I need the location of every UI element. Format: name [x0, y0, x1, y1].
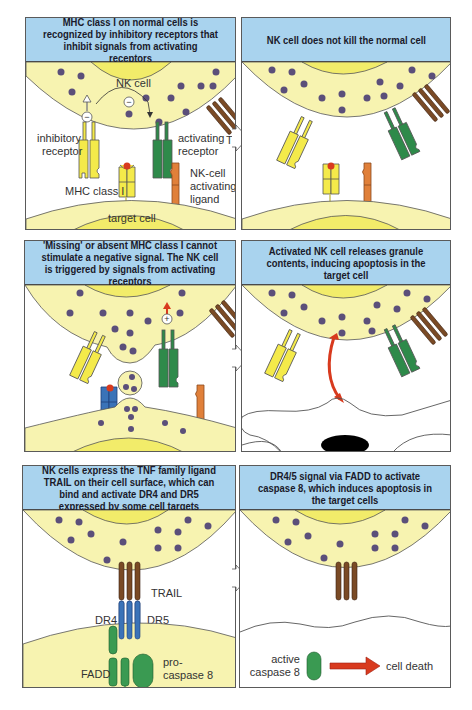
panel-normal-recognition: MHC class I on normal cells is recognize…: [25, 17, 236, 230]
diagram-trail-binding: TRAIL DR4 DR5 FADD pro- caspase 8: [23, 510, 236, 688]
panel-header: Activated NK cell releases granule conte…: [242, 241, 450, 285]
svg-text:pro-: pro-: [163, 656, 183, 668]
svg-text:cell death: cell death: [386, 660, 433, 672]
trail-trimer: [119, 562, 140, 600]
header-text: MHC class I on normal cells is recognize…: [42, 17, 219, 64]
diagram-no-kill: [242, 62, 451, 230]
target-cell-membrane: [240, 616, 451, 632]
svg-text:−: −: [126, 97, 131, 107]
svg-text:+: +: [164, 314, 169, 324]
header-text: NK cell does not kill the normal cell: [266, 34, 425, 46]
header-text: Activated NK cell releases granule conte…: [258, 245, 434, 281]
panel-header: DR4/5 signal via FADD to activate caspas…: [240, 466, 450, 510]
panel-header: NK cell does not kill the normal cell: [242, 18, 450, 62]
svg-text:TRAIL: TRAIL: [151, 587, 182, 599]
panel-header: MHC class I on normal cells is recognize…: [26, 18, 235, 62]
condensed-nucleus: [321, 435, 369, 452]
granule-release-arrow: [329, 337, 340, 399]
svg-text:activating: activating: [190, 180, 236, 192]
diagram-missing-self: +: [25, 285, 236, 452]
granule-vesicle: [118, 371, 142, 395]
panel-trail-binding: NK cells express the TNF family ligand T…: [22, 465, 236, 688]
header-text: DR4/5 signal via FADD to activate caspas…: [256, 470, 434, 506]
peptide: [124, 163, 131, 170]
svg-text:caspase 8: caspase 8: [163, 669, 213, 681]
svg-text:activating: activating: [178, 132, 224, 144]
svg-text:inhibitory: inhibitory: [37, 132, 82, 144]
active-caspase-8: [307, 652, 321, 680]
svg-text:FADD: FADD: [81, 668, 110, 680]
header-text: NK cells express the TNF family ligand T…: [39, 465, 219, 512]
svg-text:ligand: ligand: [190, 193, 219, 205]
diagram-normal-recognition: NK cell − − inhibitory receptor activati…: [26, 62, 236, 230]
panel-caspase-activation: DR4/5 signal via FADD to activate caspas…: [239, 465, 451, 688]
activating-receptor: [153, 122, 172, 178]
svg-text:receptor: receptor: [178, 145, 219, 157]
panel-header: NK cells express the TNF family ligand T…: [23, 466, 235, 510]
panel-no-kill: NK cell does not kill the normal cell: [241, 17, 451, 230]
svg-text:active: active: [271, 653, 300, 665]
header-text: 'Missing' or absent MHC class I cannot s…: [41, 240, 219, 287]
svg-text:−: −: [84, 112, 89, 122]
diagram-granule-release: [242, 285, 451, 452]
panel-missing-self: 'Missing' or absent MHC class I cannot s…: [24, 240, 236, 452]
svg-text:NK-cell: NK-cell: [190, 167, 225, 179]
svg-text:MHC class I: MHC class I: [65, 185, 124, 197]
diagram-caspase-activation: active caspase 8 cell death: [240, 510, 451, 688]
svg-text:caspase 8: caspase 8: [250, 666, 300, 678]
panel-granule-release: Activated NK cell releases granule conte…: [241, 240, 451, 452]
panel-header: 'Missing' or absent MHC class I cannot s…: [25, 241, 235, 285]
svg-text:receptor: receptor: [42, 145, 83, 157]
arrow-right-icon: [330, 657, 380, 675]
svg-text:target cell: target cell: [108, 212, 156, 224]
